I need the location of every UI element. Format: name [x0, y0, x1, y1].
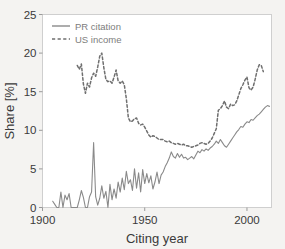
x-axis-title: Citing year	[126, 231, 189, 246]
share-vs-citing-year-line-chart: 0510152025 190019502000 Share [%] Citing…	[0, 0, 285, 249]
x-tick-label: 2000	[234, 214, 260, 226]
y-tick-label: 5	[30, 163, 36, 175]
y-axis-title: Share [%]	[2, 82, 17, 139]
x-tick-label: 1950	[132, 214, 158, 226]
legend-label-us-income: US income	[75, 34, 121, 45]
y-tick-label: 20	[24, 47, 37, 59]
y-tick-label: 10	[24, 124, 37, 136]
legend-label-pr-citation: PR citation	[75, 21, 121, 32]
x-tick-label: 1900	[30, 214, 56, 226]
chart-figure: 0510152025 190019502000 Share [%] Citing…	[0, 0, 285, 249]
y-tick-label: 25	[24, 9, 37, 21]
y-tick-label: 0	[30, 202, 36, 214]
y-tick-label: 15	[24, 86, 37, 98]
